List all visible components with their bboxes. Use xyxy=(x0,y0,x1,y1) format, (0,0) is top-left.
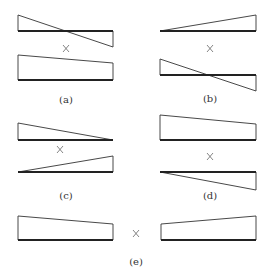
panel-c: (c) xyxy=(18,123,113,201)
panel-d-bottom-shape xyxy=(160,172,256,190)
diagram-canvas: (a) (b) xyxy=(0,0,272,280)
panel-a-multiply-icon xyxy=(63,45,69,52)
panel-e-label: (e) xyxy=(129,256,143,267)
panel-e-left-shape xyxy=(18,216,113,240)
panel-c-top-shape xyxy=(18,123,113,140)
panel-a-bottom-shape xyxy=(18,55,113,80)
panel-c-multiply-icon xyxy=(57,146,63,153)
panel-e-multiply-icon xyxy=(133,230,139,237)
panel-e: (e) xyxy=(18,216,256,267)
panel-a-label: (a) xyxy=(59,94,73,105)
panel-b: (b) xyxy=(160,15,256,104)
panel-b-top-shape xyxy=(160,15,256,31)
panel-d-multiply-icon xyxy=(207,153,213,160)
panel-d-top-shape xyxy=(160,115,256,140)
panel-a: (a) xyxy=(18,15,113,105)
panel-d-label: (d) xyxy=(203,190,217,201)
panel-d: (d) xyxy=(160,115,256,201)
panel-b-multiply-icon xyxy=(207,45,213,52)
panel-c-label: (c) xyxy=(59,190,73,201)
panel-b-bottom-shape xyxy=(160,59,256,91)
panel-a-top-shape xyxy=(18,15,113,47)
panel-e-right-shape xyxy=(161,216,256,240)
panel-c-bottom-shape xyxy=(18,156,113,172)
panel-b-label: (b) xyxy=(203,93,217,104)
